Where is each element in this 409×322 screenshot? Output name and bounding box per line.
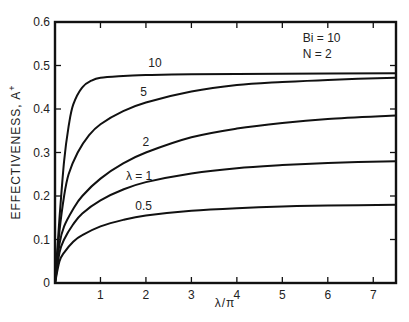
curve-labels: 1052λ = 10.5: [126, 56, 162, 213]
curve-label: 10: [148, 56, 162, 70]
y-tick-label: 0.2: [33, 189, 50, 203]
y-tick-label: 0.5: [33, 59, 50, 73]
curve-label: λ = 1: [126, 169, 153, 183]
parameter-annotations: Bi = 10N = 2: [303, 31, 341, 62]
x-tick-label: 1: [97, 288, 104, 302]
y-axis-title-superscript: +: [7, 85, 17, 91]
y-tick-label: 0.4: [33, 102, 50, 116]
y-tick-label: 0: [43, 276, 50, 290]
y-axis-title-text: EFFECTIVENESS, A: [9, 91, 23, 220]
plot-border: [55, 22, 396, 283]
x-tick-label: 2: [143, 288, 150, 302]
curves: [55, 73, 396, 283]
y-axis-title: EFFECTIVENESS, A+: [7, 85, 23, 220]
curve-0.5: [55, 205, 396, 283]
curve-2: [55, 116, 396, 284]
curve-10: [55, 73, 396, 283]
curve-label: 2: [143, 135, 150, 149]
y-axis-ticks: 00.10.20.30.40.50.6: [33, 15, 396, 290]
curve-label: 5: [140, 85, 147, 99]
curve-5: [55, 78, 396, 283]
plot-frame: [55, 22, 396, 283]
x-tick-label: 5: [279, 288, 286, 302]
curve-label: 0.5: [135, 199, 152, 213]
y-tick-label: 0.6: [33, 15, 50, 29]
parameter-label: Bi = 10: [303, 31, 341, 45]
x-tick-label: 7: [370, 288, 377, 302]
parameter-label: N = 2: [303, 47, 332, 61]
curve-1: [55, 161, 396, 283]
y-tick-label: 0.1: [33, 233, 50, 247]
effectiveness-chart: 1234567 00.10.20.30.40.50.6 1052λ = 10.5…: [0, 0, 409, 322]
x-tick-label: 3: [188, 288, 195, 302]
x-axis-title: λ/π: [215, 296, 236, 310]
x-tick-label: 6: [324, 288, 331, 302]
y-tick-label: 0.3: [33, 146, 50, 160]
